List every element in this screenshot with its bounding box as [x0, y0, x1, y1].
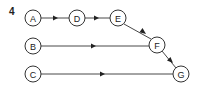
edge-e-f	[124, 24, 151, 39]
svg-text:G: G	[177, 70, 184, 80]
node-f: F	[149, 37, 165, 53]
node-b: B	[25, 38, 41, 54]
svg-text:C: C	[30, 70, 37, 80]
arrowhead-icon	[53, 16, 58, 21]
node-a: A	[25, 10, 41, 26]
node-g: G	[173, 66, 189, 82]
svg-text:E: E	[115, 14, 121, 24]
node-d: D	[69, 10, 85, 26]
directed-graph: A D E B F C G	[0, 0, 207, 95]
node-c: C	[25, 66, 41, 82]
node-e: E	[110, 10, 126, 26]
svg-text:F: F	[154, 41, 160, 51]
arrowhead-icon	[94, 16, 99, 21]
svg-text:D: D	[74, 14, 81, 24]
svg-text:B: B	[30, 42, 36, 52]
svg-text:A: A	[30, 14, 36, 24]
arrowhead-icon	[100, 72, 105, 77]
arrowhead-icon	[91, 44, 96, 49]
